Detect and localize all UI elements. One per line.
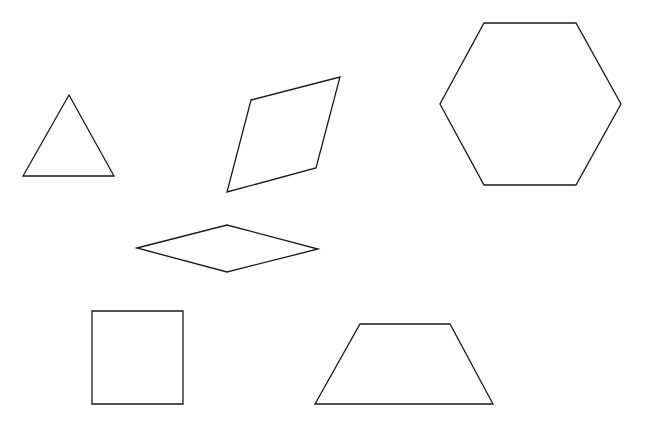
- tilted-rhombus-shape: [227, 77, 340, 192]
- square-shape: [92, 311, 183, 404]
- hexagon-shape: [440, 23, 621, 185]
- flat-rhombus-shape: [137, 225, 318, 272]
- shapes-canvas: [0, 0, 666, 435]
- triangle-shape: [23, 95, 114, 176]
- trapezoid-shape: [315, 324, 493, 404]
